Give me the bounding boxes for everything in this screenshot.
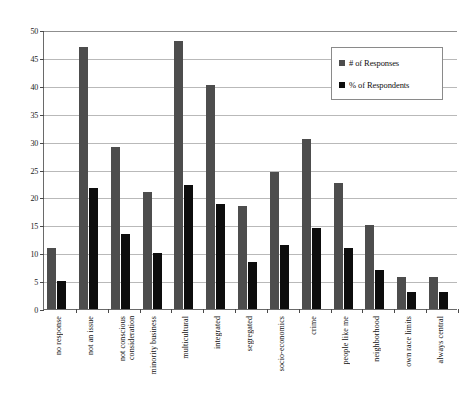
y-axis-tick-label: 15	[12, 222, 38, 231]
bar	[344, 248, 353, 309]
bar	[365, 225, 374, 309]
legend-swatch-respondents	[339, 82, 345, 88]
x-axis-label: segregated	[245, 316, 254, 351]
x-axis-label: socio-economics	[277, 316, 286, 371]
x-axis-label: not an issue	[86, 316, 95, 355]
bar	[238, 206, 247, 309]
x-axis-label: neighborhood	[372, 316, 381, 362]
bar	[302, 139, 311, 309]
bar	[216, 204, 225, 309]
x-axis-label: multicultural	[181, 316, 190, 359]
legend-label-responses: # of Responses	[349, 58, 399, 68]
bar-group	[267, 31, 299, 309]
bar-chart: # of Responses % of Respondents 05101520…	[0, 0, 475, 402]
y-axis-tick-label: 20	[12, 194, 38, 203]
bar	[206, 85, 215, 309]
x-axis-tick	[76, 309, 77, 313]
x-axis-label: own race limits	[404, 316, 413, 367]
x-axis-label: people like me	[341, 316, 350, 365]
bar	[143, 192, 152, 309]
x-axis-tick	[140, 309, 141, 313]
x-axis-label: no response	[54, 316, 63, 355]
x-axis-tick	[362, 309, 363, 313]
bar	[312, 228, 321, 309]
bar	[280, 245, 289, 309]
y-axis-tick-label: 35	[12, 110, 38, 119]
bar	[270, 172, 279, 309]
bar	[153, 253, 162, 309]
y-axis-tick-label: 45	[12, 54, 38, 63]
y-axis-tick-label: 10	[12, 250, 38, 259]
x-axis-tick	[203, 309, 204, 313]
legend-label-respondents: % of Respondents	[349, 80, 409, 90]
bar-group	[203, 31, 235, 309]
chart-legend: # of Responses % of Respondents	[331, 47, 443, 100]
y-axis-tick-label: 0	[12, 306, 38, 315]
x-axis-label: always central	[436, 316, 445, 363]
legend-item-responses: # of Responses	[339, 58, 399, 68]
y-axis-tick	[40, 310, 44, 311]
bar	[79, 47, 88, 309]
x-axis-label: minority business	[149, 316, 158, 374]
bar	[89, 188, 98, 309]
bar-group	[44, 31, 76, 309]
x-axis-tick	[171, 309, 172, 313]
y-axis-tick-label: 25	[12, 166, 38, 175]
bar	[248, 262, 257, 309]
x-axis-tick	[426, 309, 427, 313]
legend-item-respondents: % of Respondents	[339, 80, 409, 90]
bar	[375, 270, 384, 309]
bar	[111, 147, 120, 309]
bar	[439, 292, 448, 309]
x-axis-tick	[299, 309, 300, 313]
y-axis-tick-label: 50	[12, 27, 38, 36]
bar	[121, 234, 130, 309]
bar	[47, 248, 56, 309]
bar-group	[140, 31, 172, 309]
x-axis-tick	[394, 309, 395, 313]
bar-group	[76, 31, 108, 309]
x-axis-tick	[235, 309, 236, 313]
y-axis-tick-label: 30	[12, 138, 38, 147]
bar	[397, 277, 406, 309]
bar	[174, 41, 183, 309]
bar	[184, 185, 193, 309]
legend-swatch-responses	[339, 60, 345, 66]
bar	[334, 183, 343, 309]
y-axis-tick-label: 5	[12, 278, 38, 287]
bar	[429, 277, 438, 309]
x-axis-tick	[458, 309, 459, 313]
x-axis-tick	[108, 309, 109, 313]
y-axis-tick-label: 40	[12, 82, 38, 91]
x-axis-label: integrated	[213, 316, 222, 349]
x-axis-tick	[267, 309, 268, 313]
x-axis-label: crime	[309, 316, 318, 335]
bar-group	[299, 31, 331, 309]
x-axis-tick	[331, 309, 332, 313]
x-axis-label: not conscious consideration	[118, 316, 136, 361]
bar	[407, 292, 416, 309]
bar	[57, 281, 66, 309]
bar-group	[108, 31, 140, 309]
bar-group	[171, 31, 203, 309]
bar-group	[235, 31, 267, 309]
